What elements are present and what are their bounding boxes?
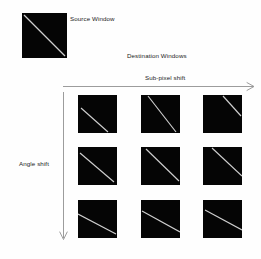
destination-window-r2c2	[203, 200, 242, 238]
destination-window-line-graphic	[141, 147, 180, 185]
destination-window-r0c1	[141, 95, 180, 133]
destination-window-diagonal-line	[212, 148, 242, 176]
destination-window-diagonal-line	[146, 149, 179, 181]
destination-window-diagonal-line	[223, 96, 241, 116]
source-window-diagonal-line	[24, 15, 65, 56]
angle-shift-label: Angle shift	[19, 160, 49, 168]
destination-window-line-graphic	[203, 200, 242, 238]
destination-window-r0c2	[203, 95, 242, 133]
destination-window-line-graphic	[203, 95, 242, 133]
destination-window-diagonal-line	[80, 153, 114, 182]
destination-windows-label: Destination Windows	[127, 52, 187, 60]
angle-shift-arrow	[56, 90, 72, 244]
destination-window-r1c1	[141, 147, 180, 185]
destination-window-diagonal-line	[148, 96, 176, 132]
destination-window-r2c1	[141, 200, 180, 238]
diagram-canvas: Source Window Destination Windows Sub-pi…	[0, 0, 261, 259]
destination-window-r2c0	[78, 200, 117, 238]
destination-window-line-graphic	[78, 200, 117, 238]
destination-window-r1c0	[78, 147, 117, 185]
destination-window-diagonal-line	[81, 108, 108, 132]
source-window	[22, 13, 67, 58]
subpixel-shift-arrow	[60, 80, 258, 94]
destination-window-diagonal-line	[78, 214, 116, 234]
destination-window-diagonal-line	[142, 211, 180, 232]
destination-window-line-graphic	[141, 200, 180, 238]
destination-window-line-graphic	[203, 147, 242, 185]
destination-window-line-graphic	[78, 95, 117, 133]
source-window-label: Source Window	[70, 15, 115, 23]
destination-windows-grid	[78, 95, 242, 238]
destination-window-line-graphic	[78, 147, 117, 185]
source-window-line-graphic	[22, 13, 67, 58]
destination-window-r0c0	[78, 95, 117, 133]
destination-window-r1c2	[203, 147, 242, 185]
destination-window-line-graphic	[141, 95, 180, 133]
destination-window-diagonal-line	[205, 210, 242, 230]
